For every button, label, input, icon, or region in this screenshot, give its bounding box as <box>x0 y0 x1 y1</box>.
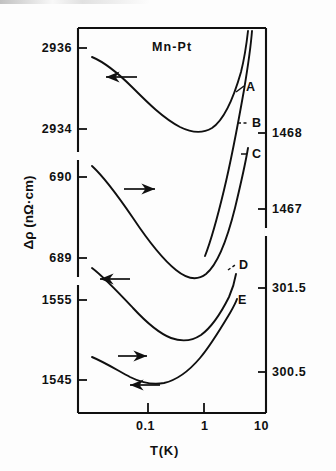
right-tick-label-1467: 1467 <box>272 202 302 216</box>
curve-C <box>92 148 248 278</box>
curve-label-A: A <box>246 80 255 94</box>
left-tick-label-2934: 2934 <box>14 122 72 136</box>
curve-B <box>205 31 252 256</box>
curve-label-E: E <box>238 293 246 307</box>
right-tick-label-301-5: 301.5 <box>272 281 306 295</box>
figure-container: Mn-Pt Δρ (nΩ·cm) T(K) 2936 2934 690 689 … <box>0 0 336 471</box>
leader-D <box>228 265 235 270</box>
curve-label-B: B <box>252 116 261 130</box>
right-axis-ticks <box>258 133 266 372</box>
curve-E <box>92 299 237 384</box>
x-axis-title: T(K) <box>150 443 179 458</box>
left-tick-label-2936: 2936 <box>14 41 72 55</box>
left-tick-label-690: 690 <box>14 170 72 184</box>
left-tick-label-1555: 1555 <box>14 293 72 307</box>
plot-area <box>0 0 336 471</box>
x-tick-label-0-1: 0.1 <box>136 419 155 433</box>
label-leader-lines <box>228 86 247 270</box>
left-axis-ticks <box>78 48 87 380</box>
right-axis-breaks <box>264 228 268 236</box>
left-tick-label-1545: 1545 <box>14 373 72 387</box>
curve-label-C: C <box>252 147 261 161</box>
right-tick-label-300-5: 300.5 <box>272 365 306 379</box>
x-tick-label-10: 10 <box>254 419 269 433</box>
right-tick-label-1468: 1468 <box>272 126 302 140</box>
direction-arrows <box>100 77 160 385</box>
curve-label-D: D <box>239 258 248 272</box>
x-tick-label-1: 1 <box>201 419 208 433</box>
sample-label: Mn-Pt <box>152 40 192 54</box>
x-axis-ticks <box>148 403 204 413</box>
plot-frame <box>78 28 266 413</box>
left-tick-label-689: 689 <box>14 251 72 265</box>
